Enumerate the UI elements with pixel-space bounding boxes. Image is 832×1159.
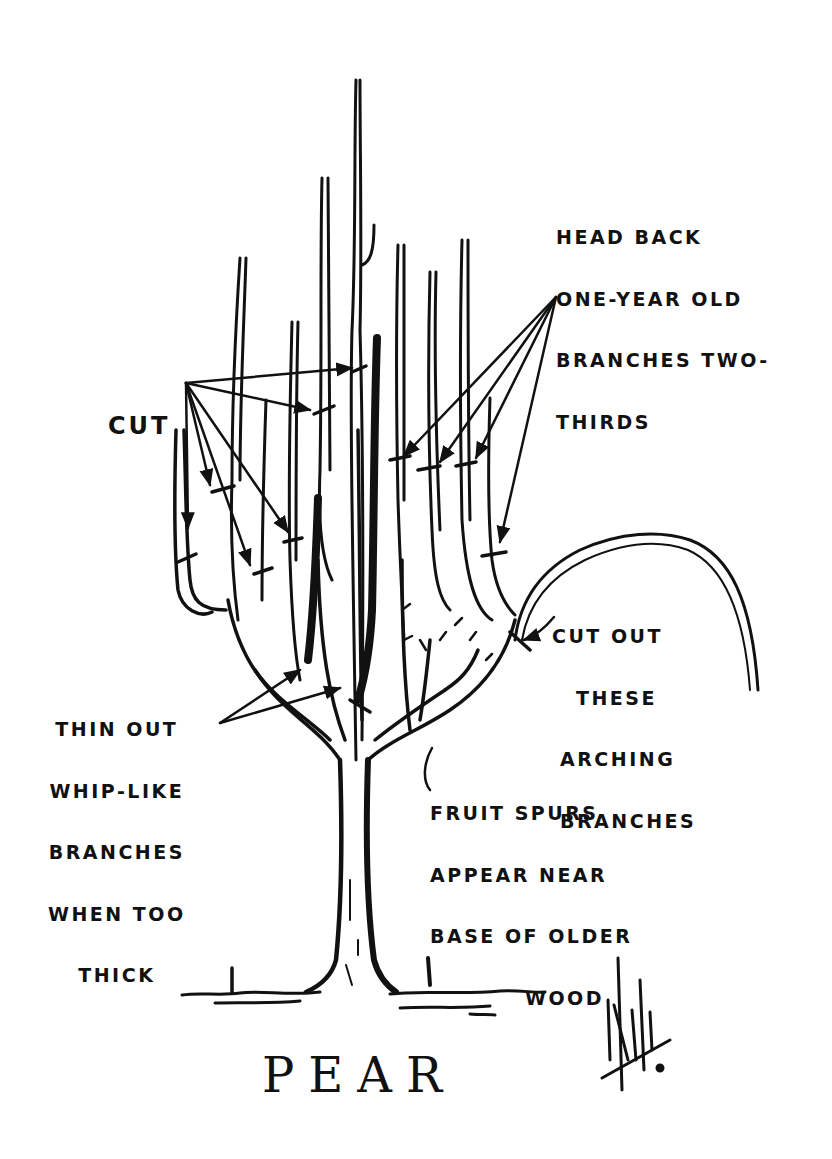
cut-line-1: CUT [108, 414, 170, 440]
thin-out-label: THIN OUT WHIP-LIKE BRANCHES WHEN TOO THI… [48, 678, 186, 1027]
fruit-spurs-line-4: WOOD [430, 988, 632, 1009]
head-back-arrows [404, 297, 556, 542]
fruit-spurs-line-2: APPEAR NEAR [430, 865, 632, 886]
whip-shoots [308, 338, 377, 700]
thin-out-line-4: WHEN TOO [48, 904, 186, 925]
cut-out-line-1: CUT OUT [552, 626, 696, 647]
cut-out-arrow [524, 617, 554, 640]
cut-out-line-2: THESE [552, 688, 696, 709]
cut-label: CUT [108, 362, 170, 492]
head-back-line-2: ONE-YEAR OLD [556, 289, 770, 310]
diagram-title: PEAR [262, 1050, 456, 1102]
thin-out-line-5: THICK [48, 965, 186, 986]
head-back-label: HEAD BACK ONE-YEAR OLD BRANCHES TWO- THI… [556, 186, 770, 473]
cut-arrows [186, 368, 352, 565]
thin-out-line-2: WHIP-LIKE [48, 781, 186, 802]
fruit-spurs-label: FRUIT SPURS APPEAR NEAR BASE OF OLDER WO… [430, 762, 632, 1049]
head-back-line-1: HEAD BACK [556, 227, 770, 248]
thin-out-line-1: THIN OUT [48, 719, 186, 740]
thin-out-line-3: BRANCHES [48, 842, 186, 863]
trunk [306, 760, 396, 992]
head-back-line-4: THIRDS [556, 412, 770, 433]
fruit-spurs-line-1: FRUIT SPURS [430, 803, 632, 824]
main-limbs [175, 430, 515, 760]
head-back-line-3: BRANCHES TWO- [556, 350, 770, 371]
fruit-spurs-line-3: BASE OF OLDER [430, 926, 632, 947]
